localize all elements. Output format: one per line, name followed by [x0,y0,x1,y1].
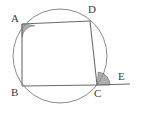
angle-wedge-c [97,72,110,85]
vertex-label-d: D [88,3,96,15]
side-bc [22,85,97,86]
vertex-label-c: C [94,87,101,99]
angle-wedge-a [22,24,35,37]
geometry-canvas: A B C D E [0,0,143,114]
vertex-label-e: E [118,70,125,82]
geometry-figure: A B C D E [0,0,143,114]
side-da [22,21,90,24]
vertex-label-b: B [11,86,18,98]
vertex-label-a: A [11,12,19,24]
side-cd [90,21,97,85]
circumcircle [13,9,107,103]
